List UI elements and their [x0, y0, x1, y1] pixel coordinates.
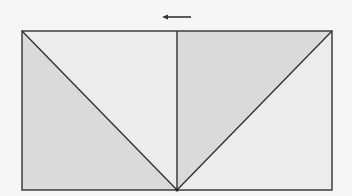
folded-rectangle-diagram	[0, 0, 352, 196]
apex-point	[175, 188, 178, 191]
